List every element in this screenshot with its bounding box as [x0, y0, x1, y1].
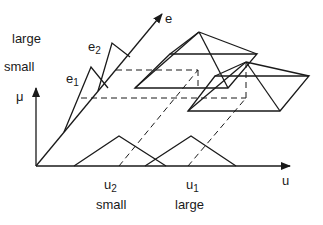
e2-label: e2 [88, 40, 101, 56]
pyramid-edge [188, 62, 246, 111]
u-fuzzy-sets [74, 136, 236, 166]
pyramid-edge [199, 32, 257, 54]
rule-pyramid-1 [135, 32, 257, 88]
fuzzy-rule-diagram: large small e2 e1 μ e u u2 u1 small larg… [0, 0, 323, 225]
e-membership-e2 [98, 43, 130, 91]
pyramid-base [135, 54, 257, 88]
pyramid-edge [215, 62, 246, 76]
projection-lines [81, 62, 246, 166]
pyramid-base [188, 76, 309, 111]
u-large-label: large [175, 198, 204, 211]
u2-label: u2 [104, 178, 117, 194]
pyramid-edge [246, 62, 309, 76]
e-axis-label: e [165, 12, 172, 25]
u-axis-label: u [282, 174, 289, 187]
diagram-canvas [0, 0, 323, 225]
u-small-label: small [96, 198, 126, 211]
axes [36, 14, 290, 166]
pyramid-edge [135, 32, 199, 88]
dashed-projection-line [188, 98, 246, 166]
pyramid-edge [199, 32, 228, 88]
rule-pyramids [135, 32, 309, 111]
u1-label: u1 [186, 178, 199, 194]
pyramid-edge [246, 62, 280, 111]
e-axis [36, 14, 162, 166]
dashed-projection-line [119, 70, 198, 166]
mu-label: μ [16, 90, 24, 103]
e-small-label: small [4, 60, 34, 73]
rule-pyramid-2 [188, 62, 309, 111]
e1-label: e1 [66, 72, 79, 88]
e-large-label: large [12, 32, 41, 45]
